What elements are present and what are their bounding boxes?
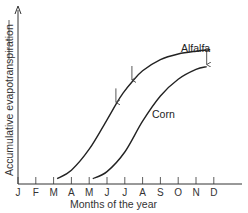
x-tick-label: J (105, 187, 110, 198)
x-tick-label: M (85, 187, 93, 198)
x-tick-label: J (122, 187, 127, 198)
x-tick-label: M (49, 187, 57, 198)
x-tick-label: A (68, 187, 75, 198)
alfalfa-curve (57, 50, 210, 179)
x-tick-label: J (16, 187, 21, 198)
corn-label: Corn (152, 108, 175, 120)
x-ticks: JFMAMJJASOND (16, 177, 218, 198)
x-axis-title: Months of the year (70, 198, 157, 210)
x-tick-label: D (210, 187, 217, 198)
corn-curve (93, 67, 207, 179)
x-tick-label: A (139, 187, 146, 198)
x-tick-label: S (157, 187, 164, 198)
x-tick-label: N (192, 187, 199, 198)
x-tick-label: O (174, 187, 182, 198)
x-tick-label: F (33, 187, 39, 198)
alfalfa-label: Alfalfa (181, 42, 210, 54)
evapotranspiration-chart: JFMAMJJASOND Accumulative evapotranspira… (0, 0, 248, 213)
axes: JFMAMJJASOND (15, 6, 242, 198)
